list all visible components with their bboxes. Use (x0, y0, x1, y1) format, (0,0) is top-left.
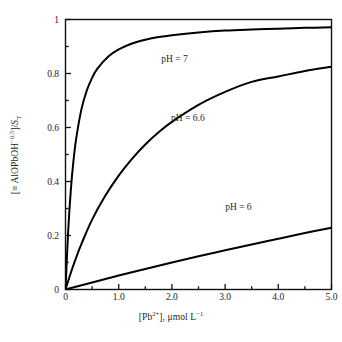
x-axis-label: [Pb2+], μmol L−1 (0, 312, 342, 322)
series-layer (66, 27, 332, 289)
series-annotation: pH = 7 (161, 54, 187, 64)
y-axis-label-container: [≡ AlOPbOH−0.5]/ST (0, 0, 30, 310)
chart-figure: [≡ AlOPbOH−0.5]/ST [Pb2+], μmol L−1 01.0… (0, 0, 342, 342)
y-tick-label: 1 (54, 15, 59, 25)
y-tick-label: 0.6 (47, 123, 59, 133)
y-tick-label: 0.8 (47, 69, 59, 79)
chart-plot-area (0, 0, 342, 342)
y-tick-label: 0 (54, 285, 59, 295)
x-tick-label: 2.0 (166, 292, 178, 302)
series-line-ph-7 (66, 27, 332, 289)
series-annotation: pH = 6.6 (171, 113, 205, 123)
x-tick-label: 1.0 (113, 292, 125, 302)
y-tick-label: 0.4 (47, 177, 59, 187)
x-tick-label: 5.0 (326, 292, 338, 302)
x-tick-label: 3.0 (219, 292, 231, 302)
y-tick-label: 0.2 (47, 231, 59, 241)
x-tick-label: 0 (63, 292, 68, 302)
y-axis-label: [≡ AlOPbOH−0.5]/ST (10, 116, 20, 195)
series-line-ph-6 (66, 228, 332, 290)
series-annotation: pH = 6 (225, 202, 251, 212)
x-tick-label: 4.0 (272, 292, 284, 302)
